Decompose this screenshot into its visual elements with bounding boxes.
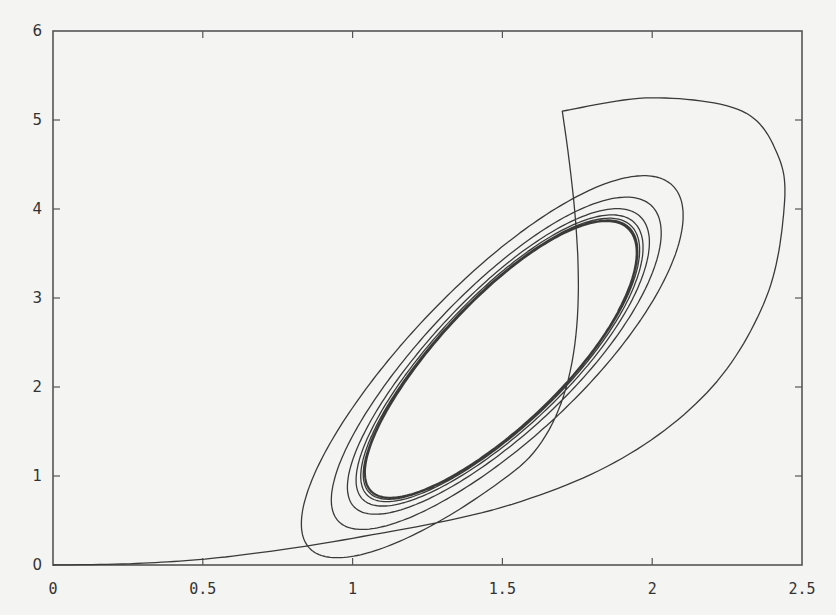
y-tick-label: 0 [32,556,42,574]
y-tick-labels: 0123456 [32,22,42,574]
plot-frame [53,31,802,565]
phase-portrait-chart: 00.511.522.5 0123456 [0,0,836,615]
axis-ticks [53,31,802,565]
y-tick-label: 3 [32,289,42,307]
x-tick-label: 1 [348,580,357,598]
y-tick-label: 6 [32,22,42,40]
y-tick-label: 5 [32,111,42,129]
x-tick-label: 2 [648,580,657,598]
x-tick-labels: 00.511.522.5 [48,580,815,598]
trajectory-layer [53,98,785,565]
x-tick-label: 0.5 [189,580,216,598]
x-tick-label: 1.5 [489,580,516,598]
axes-box [53,31,802,565]
y-tick-label: 1 [32,467,42,485]
x-tick-label: 2.5 [788,580,815,598]
y-tick-label: 2 [32,378,42,396]
trajectory-line [53,98,785,565]
x-tick-label: 0 [48,580,57,598]
y-tick-label: 4 [32,200,42,218]
